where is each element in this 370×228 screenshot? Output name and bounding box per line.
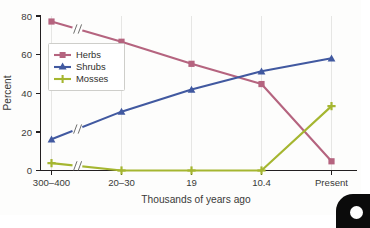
x-axis: 300–400 20–30 19 10.4 Present Thousands …: [33, 171, 357, 206]
x-tick-label-3: 10.4: [252, 177, 271, 188]
axis-break-herbs: [73, 24, 83, 33]
x-tick-label-2: 19: [186, 177, 197, 188]
legend-label-mosses: Mosses: [76, 73, 109, 84]
gridlines-vertical: [52, 16, 332, 170]
legend-label-herbs: Herbs: [76, 49, 101, 60]
axis-break-shrubs: [73, 124, 83, 133]
legend-marker-square-herbs: [60, 52, 66, 58]
datapoint-herbs-3: [258, 81, 264, 87]
x-tick-label-0: 300–400: [33, 177, 70, 188]
y-tick-label-40: 40: [21, 88, 32, 99]
legend-item-mosses[interactable]: Mosses: [54, 73, 109, 84]
datapoint-herbs-4: [328, 158, 334, 164]
y-tick-label-20: 20: [21, 127, 32, 138]
x-tick-label-1: 20–30: [108, 177, 135, 188]
y-axis: 0 20 40 60 80 Percent: [2, 11, 41, 177]
axis-break-gap-2: [73, 165, 83, 166]
y-tick-label-0: 0: [27, 165, 32, 176]
x-axis-title: Thousands of years ago: [141, 194, 251, 205]
legend: Herbs Shrubs Mosses: [49, 44, 125, 91]
axis-break-gap-0: [73, 28, 83, 31]
y-tick-label-60: 60: [21, 49, 32, 60]
legend-label-shrubs: Shrubs: [76, 61, 106, 72]
datapoint-herbs-0: [48, 18, 54, 24]
datapoint-herbs-2: [188, 61, 194, 67]
x-tick-label-4: Present: [315, 177, 348, 188]
y-axis-title: Percent: [2, 75, 13, 110]
axis-break-mosses: [73, 161, 83, 170]
y-tick-label-80: 80: [21, 11, 32, 22]
